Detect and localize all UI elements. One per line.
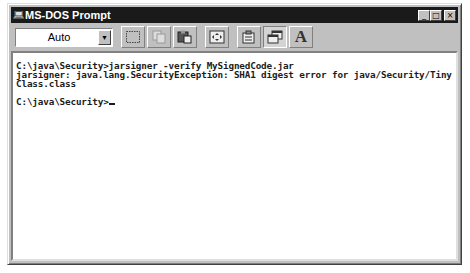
console-line: Class.class xyxy=(16,79,453,88)
font-icon: A xyxy=(295,28,307,46)
paste-button[interactable] xyxy=(173,26,197,48)
console-blank-line xyxy=(16,88,453,96)
text-cursor xyxy=(109,96,115,105)
background-icon xyxy=(267,30,283,44)
console-line: jarsigner: java.lang.SecurityException: … xyxy=(16,70,453,79)
full-screen-icon xyxy=(209,30,225,44)
copy-button[interactable] xyxy=(147,26,171,48)
minimize-button[interactable]: _ xyxy=(418,10,430,21)
maximize-button[interactable]: □ xyxy=(430,10,442,21)
dropdown-button[interactable]: ▼ xyxy=(98,30,111,45)
title-bar[interactable]: 💻︎ MS-DOS Prompt _ □ × xyxy=(11,7,458,23)
maximize-icon: □ xyxy=(432,11,440,20)
window-title: MS-DOS Prompt xyxy=(25,9,111,21)
close-icon: × xyxy=(447,11,454,20)
mark-icon xyxy=(125,30,141,44)
minimize-icon: _ xyxy=(422,11,426,20)
properties-icon xyxy=(241,30,257,44)
background-button[interactable] xyxy=(263,26,287,48)
chevron-down-icon: ▼ xyxy=(101,34,108,41)
console-output[interactable]: C:\java\Security>jarsigner -verify MySig… xyxy=(11,51,458,261)
close-button[interactable]: × xyxy=(444,10,456,21)
paste-icon xyxy=(177,30,193,44)
mark-button[interactable] xyxy=(121,26,145,48)
console-prompt-line: C:\java\Security> xyxy=(16,96,453,106)
font-button[interactable]: A xyxy=(289,26,313,48)
properties-button[interactable] xyxy=(237,26,261,48)
window-controls: _ □ × xyxy=(418,10,456,21)
font-size-select[interactable]: Auto ▼ xyxy=(15,28,113,47)
full-screen-button[interactable] xyxy=(205,26,229,48)
ms-dos-window: 💻︎ MS-DOS Prompt _ □ × Auto ▼ xyxy=(7,3,462,265)
copy-icon xyxy=(151,30,167,44)
toolbar: Auto ▼ A xyxy=(11,25,458,49)
console-prompt: C:\java\Security> xyxy=(16,96,109,107)
ms-dos-icon: 💻︎ xyxy=(13,9,23,21)
